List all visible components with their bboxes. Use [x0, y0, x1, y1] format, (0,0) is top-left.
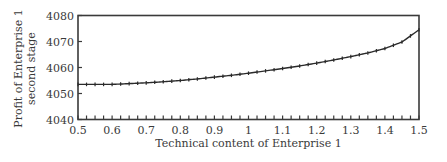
x-axis-ticks: 0.50.60.70.80.911.11.21.31.41.5 [69, 124, 428, 137]
y-tick-label: 4050 [46, 88, 74, 101]
y-tick-label: 4060 [46, 62, 74, 75]
y-axis-label-line1: Profit of Enterprise 1 [12, 9, 25, 129]
x-tick-label: 0.8 [172, 124, 190, 137]
x-tick-label: 0.6 [103, 124, 121, 137]
x-tick-label: 1.2 [308, 124, 326, 137]
x-axis-label: Technical content of Enterprise 1 [78, 137, 419, 150]
y-tick-label: 4080 [46, 10, 74, 23]
y-axis-label-line2: second stage [25, 9, 38, 129]
x-axis-minor-ticks [78, 116, 419, 120]
x-tick-label: 1.4 [376, 124, 394, 137]
data-series [78, 28, 419, 86]
plot-frame [78, 16, 419, 120]
y-axis-ticks: 40404050406040704080 [46, 10, 82, 127]
x-tick-label: 0.7 [137, 124, 155, 137]
y-tick-label: 4070 [46, 36, 74, 49]
x-tick-label: 0.5 [69, 124, 87, 137]
x-tick-label: 1 [245, 124, 252, 137]
x-tick-label: 1.5 [410, 124, 428, 137]
line-chart: 40404050406040704080 0.50.60.70.80.911.1… [0, 0, 447, 162]
x-tick-label: 1.3 [342, 124, 360, 137]
plot-border [78, 16, 419, 120]
series-line [78, 30, 419, 85]
x-tick-label: 1.1 [274, 124, 292, 137]
x-tick-label: 0.9 [206, 124, 224, 137]
